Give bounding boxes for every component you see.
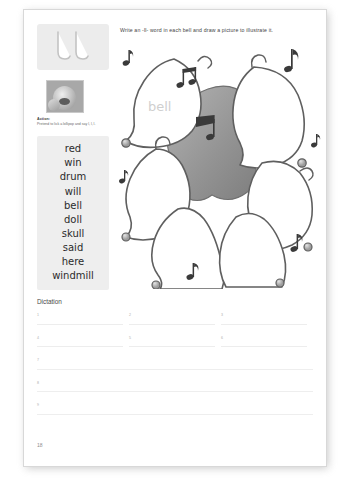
dictation-cell[interactable]: 7: [37, 358, 313, 370]
dictation-write-line[interactable]: [37, 324, 123, 325]
bells-illustration: bell: [112, 37, 324, 289]
word-list-item: win: [37, 156, 109, 170]
word-list-item: skull: [37, 227, 109, 241]
worksheet-page: Action: Pretend to lick a lollipop and s…: [23, 9, 327, 467]
music-note-icon: [118, 170, 128, 184]
dictation-write-line[interactable]: [129, 324, 215, 325]
sample-word-bell: bell: [148, 99, 171, 114]
dictation-number: 2: [129, 313, 215, 317]
ll-letterform-icon: [50, 24, 96, 64]
dictation-cell[interactable]: 5: [129, 336, 221, 359]
music-note-icon: [122, 50, 133, 67]
dictation-write-line[interactable]: [129, 346, 215, 347]
word-list-item: drum: [37, 170, 109, 184]
dictation-cell[interactable]: 4: [37, 336, 129, 359]
bells-illustration-svg: bell: [112, 37, 324, 289]
word-list-item: bell: [37, 199, 109, 213]
word-list-panel: red win drum will bell doll skull said h…: [37, 136, 109, 290]
word-list-item: doll: [37, 213, 109, 227]
letter-tile-ll: [37, 24, 109, 70]
word-list-item: here: [37, 255, 109, 269]
dictation-cell[interactable]: 6: [221, 336, 313, 359]
dictation-write-line[interactable]: [221, 324, 307, 325]
bell-outline-2: [233, 55, 306, 168]
dictation-write-line[interactable]: [37, 414, 313, 415]
action-description: Pretend to lick a lollipop and say l, l,…: [37, 122, 103, 127]
action-photo: [46, 80, 84, 113]
music-note-icon: [283, 49, 298, 73]
music-note-icon: [310, 134, 320, 148]
dictation-section: Dictation 1 2 3 4 5: [37, 298, 313, 426]
dictation-number: 5: [129, 336, 215, 340]
word-list-item: said: [37, 241, 109, 255]
word-list-item: red: [37, 142, 109, 156]
dictation-number: 7: [37, 358, 313, 362]
dictation-row-1: 1 2 3: [37, 313, 313, 336]
dictation-cell[interactable]: 9: [37, 403, 313, 415]
word-list-item: will: [37, 185, 109, 199]
dictation-row-2: 4 5 6: [37, 336, 313, 359]
dictation-number: 4: [37, 336, 123, 340]
dictation-number: 9: [37, 403, 313, 407]
dictation-write-line[interactable]: [221, 346, 307, 347]
dictation-heading: Dictation: [37, 298, 313, 305]
dictation-cell[interactable]: 1: [37, 313, 129, 336]
dictation-cell[interactable]: 3: [221, 313, 313, 336]
dictation-cell[interactable]: 8: [37, 381, 313, 393]
dictation-number: 1: [37, 313, 123, 317]
dictation-number: 8: [37, 381, 313, 385]
dictation-number: 3: [221, 313, 307, 317]
dictation-write-line[interactable]: [37, 346, 123, 347]
dictation-cell[interactable]: 2: [129, 313, 221, 336]
dictation-write-line[interactable]: [37, 391, 313, 392]
photo-hand: [48, 99, 60, 111]
action-label: Action:: [37, 117, 109, 121]
photo-mouth: [59, 98, 70, 105]
dictation-number: 6: [221, 336, 307, 340]
instruction-text: Write an -ll- word in each bell and draw…: [120, 27, 273, 33]
page-number: 18: [37, 442, 43, 448]
word-list-item: windmill: [37, 269, 109, 283]
left-sidebar: Action: Pretend to lick a lollipop and s…: [37, 24, 109, 290]
dictation-write-line[interactable]: [37, 369, 313, 370]
